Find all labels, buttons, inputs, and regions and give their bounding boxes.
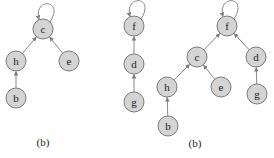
edge-right-c-to-f bbox=[204, 34, 220, 50]
node-label: c bbox=[195, 51, 200, 63]
node-left-e: e bbox=[59, 51, 79, 71]
node-label: b bbox=[165, 120, 171, 132]
node-label: d bbox=[131, 58, 137, 70]
forest-diagram: chebfdgfcdhegb (b)(b) bbox=[0, 0, 274, 158]
node-label: e bbox=[219, 81, 224, 93]
node-label: e bbox=[67, 55, 72, 67]
edge-right-d-to-f bbox=[234, 34, 249, 50]
node-middle-g: g bbox=[124, 92, 144, 112]
node-label: g bbox=[131, 96, 137, 108]
node-right-h: h bbox=[157, 77, 177, 97]
node-right-g: g bbox=[247, 84, 267, 104]
node-label: h bbox=[13, 55, 19, 67]
edge-left-e-to-c bbox=[50, 37, 63, 53]
node-label: h bbox=[164, 81, 170, 93]
node-label: g bbox=[254, 88, 260, 100]
node-right-b: b bbox=[158, 116, 178, 136]
node-right-c: c bbox=[187, 47, 207, 67]
node-left-h: h bbox=[6, 51, 26, 71]
node-right-e: e bbox=[211, 77, 231, 97]
node-right-d: d bbox=[246, 47, 266, 67]
edge-left-h-to-c bbox=[22, 37, 36, 53]
node-left-c: c bbox=[33, 19, 53, 39]
node-left-b: b bbox=[6, 88, 26, 108]
node-label: c bbox=[41, 23, 46, 35]
node-middle-d: d bbox=[124, 54, 144, 74]
node-right-f: f bbox=[217, 16, 237, 36]
node-label: f bbox=[225, 20, 229, 32]
caption-left: (b) bbox=[37, 136, 50, 149]
node-middle-f: f bbox=[124, 16, 144, 36]
edge-right-e-to-c bbox=[204, 65, 215, 79]
caption-right: (b) bbox=[189, 137, 202, 150]
edge-right-h-to-c bbox=[174, 64, 190, 80]
node-label: d bbox=[253, 51, 259, 63]
node-label: f bbox=[132, 20, 136, 32]
node-label: b bbox=[13, 92, 19, 104]
